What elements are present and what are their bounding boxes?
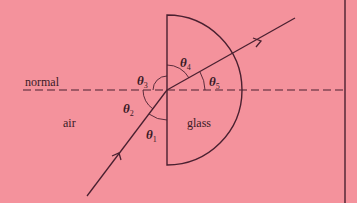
normal-label: normal [25,76,59,88]
diagram-canvas [0,0,357,203]
theta2-label: θ2 [123,102,134,118]
glass-label: glass [187,117,211,129]
air-label: air [63,117,76,129]
refracted-ray [167,18,295,90]
theta3-label: θ3 [137,74,148,90]
theta4-label: θ4 [180,56,191,72]
refraction-diagram: normal air glass θ1 θ2 θ3 θ4 θ5 [0,0,357,203]
arc-theta1 [149,114,167,120]
arc-theta2 [143,90,153,109]
arc-theta3 [153,76,167,90]
refracted-arrow-icon [253,38,261,47]
arc-theta5 [200,72,205,90]
theta1-label: θ1 [146,128,157,144]
theta5-label: θ5 [209,75,220,91]
